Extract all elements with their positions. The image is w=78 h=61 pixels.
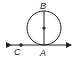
geometry-diagram: B A C bbox=[0, 0, 78, 61]
label-b: B bbox=[40, 1, 46, 11]
center-point bbox=[42, 26, 45, 29]
label-c: C bbox=[14, 47, 21, 57]
label-a: A bbox=[39, 48, 46, 58]
